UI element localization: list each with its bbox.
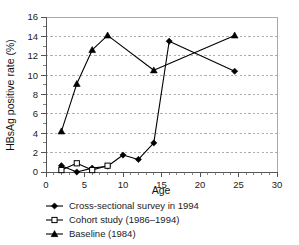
x-tick-label-0: 0 xyxy=(43,179,48,190)
y-tick-label-0: 0 xyxy=(33,166,38,177)
x-tick-label-10: 10 xyxy=(118,179,129,190)
y-tick-label-6: 6 xyxy=(33,108,38,119)
y-axis-ticks xyxy=(41,17,46,172)
data-point-marker xyxy=(51,203,57,209)
x-axis-title: Age xyxy=(152,184,171,196)
data-point-marker xyxy=(105,163,110,168)
x-axis-ticks xyxy=(46,172,277,177)
legend-item-2[interactable]: Cohort study (1986–1994) xyxy=(46,214,179,225)
data-point-marker xyxy=(74,161,79,166)
legend-item-1[interactable]: Cross-sectional survey in 1994 xyxy=(46,200,199,211)
legend-label: Baseline (1984) xyxy=(69,228,136,239)
x-tick-label-30: 30 xyxy=(272,179,283,190)
x-tick-label-5: 5 xyxy=(82,179,87,190)
y-axis-title: HBsAg positive rate (%) xyxy=(4,39,16,150)
chart-canvas: 051015202530 0246810121416 Age HBsAg pos… xyxy=(0,0,299,245)
y-tick-label-14: 14 xyxy=(27,31,38,42)
y-tick-label-2: 2 xyxy=(33,147,38,158)
data-point-marker xyxy=(52,217,57,222)
y-tick-label-4: 4 xyxy=(33,128,38,139)
y-tick-label-16: 16 xyxy=(27,11,38,22)
legend-label: Cohort study (1986–1994) xyxy=(69,214,179,225)
x-tick-label-20: 20 xyxy=(195,179,206,190)
y-tick-label-8: 8 xyxy=(33,89,38,100)
y-tick-label-10: 10 xyxy=(27,70,38,81)
legend-item-3[interactable]: Baseline (1984) xyxy=(46,228,136,239)
x-tick-label-25: 25 xyxy=(233,179,244,190)
legend-label: Cross-sectional survey in 1994 xyxy=(69,200,199,211)
y-tick-label-12: 12 xyxy=(27,50,38,61)
data-point-marker xyxy=(90,167,95,172)
data-point-marker xyxy=(59,167,64,172)
chart-figure: 051015202530 0246810121416 Age HBsAg pos… xyxy=(0,0,299,245)
y-axis-tick-labels: 0246810121416 xyxy=(27,11,38,177)
chart-legend: Cross-sectional survey in 1994Cohort stu… xyxy=(46,200,199,239)
